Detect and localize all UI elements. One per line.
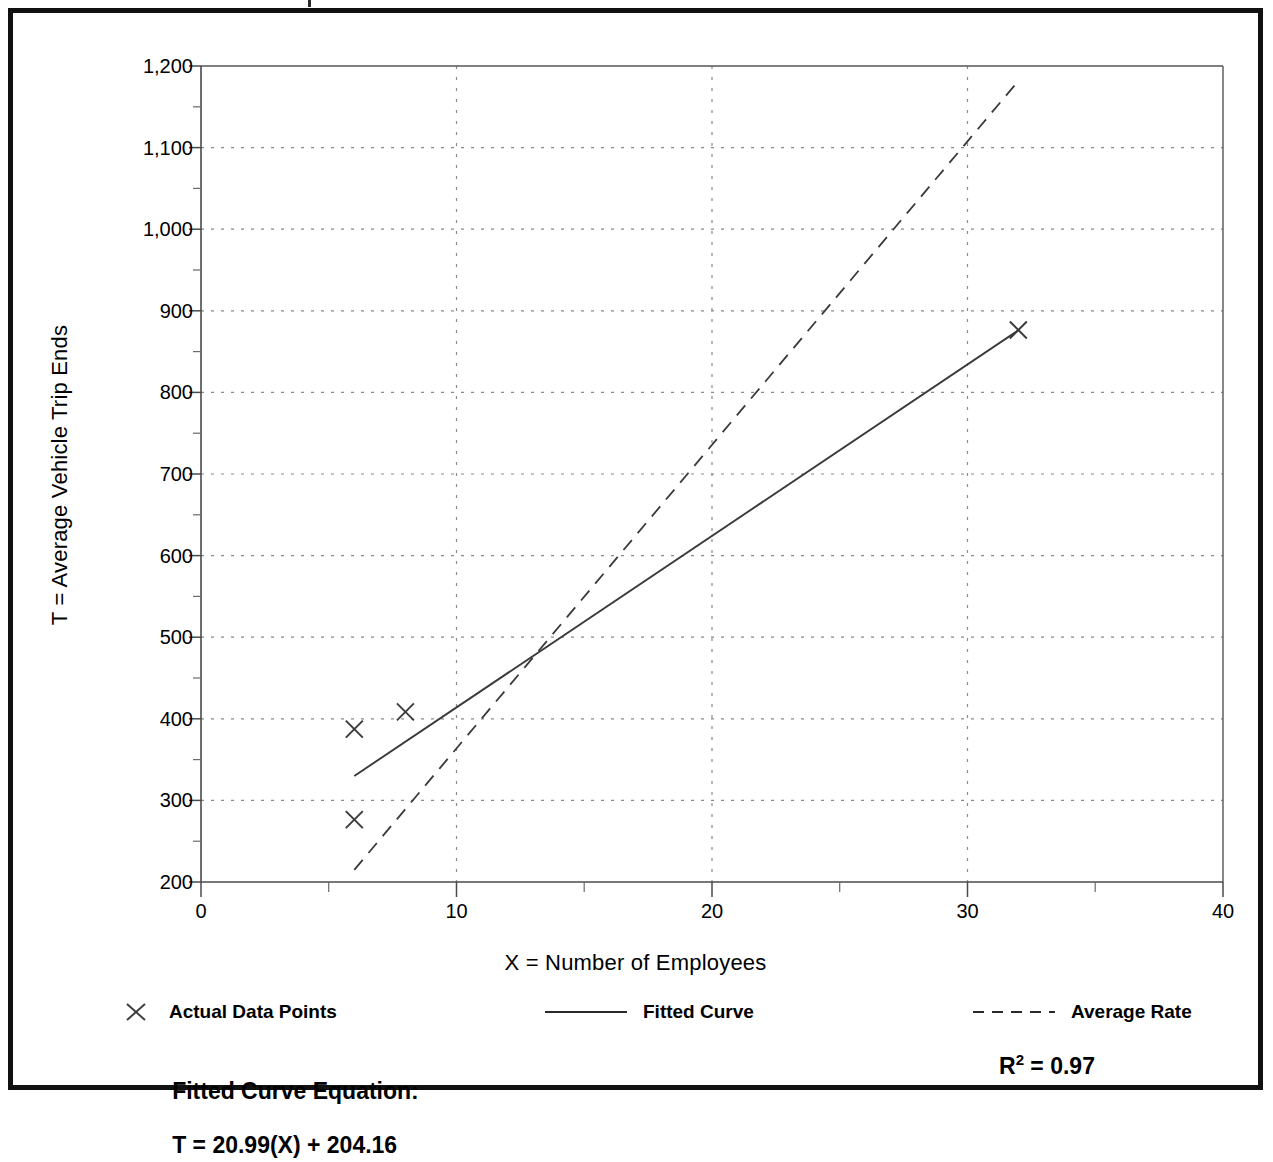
data-point-marker [346, 811, 363, 828]
r-squared-exponent: 2 [1016, 1051, 1024, 1068]
x-axis-ticks [201, 882, 1223, 897]
equation-label: Fitted Curve Equation: [172, 1078, 419, 1104]
y-tick-label: 400 [103, 709, 193, 729]
chart-canvas [13, 13, 1258, 1085]
data-point-marker [1010, 322, 1027, 339]
x-tick-label: 20 [677, 901, 747, 921]
chart-plot-area: 1,200 1,100 1,000 900 800 700 600 500 40… [13, 13, 1258, 1085]
y-tick-label: 1,000 [103, 219, 193, 239]
clipped-title-artifact [308, 0, 311, 7]
legend-label: Actual Data Points [169, 1001, 337, 1023]
y-tick-label: 200 [103, 872, 193, 892]
y-axis-title: T = Average Vehicle Trip Ends [47, 215, 73, 735]
solid-line-icon [543, 1000, 629, 1024]
r-squared-number: = 0.97 [1030, 1053, 1095, 1079]
series-line-fitted-curve [354, 330, 1018, 776]
x-tick-label: 10 [422, 901, 492, 921]
equation-value: T = 20.99(X) + 204.16 [172, 1132, 397, 1158]
legend-item-actual-data-points[interactable]: Actual Data Points [119, 995, 337, 1029]
chart-legend: Actual Data Points Fitted Curve Average … [13, 995, 1258, 1035]
r-squared-symbol: R [999, 1053, 1016, 1079]
grid-lines [201, 66, 1223, 882]
x-tick-label: 30 [933, 901, 1003, 921]
r-squared-value: R2 = 0.97 [999, 1051, 1095, 1080]
series-line-average-rate [354, 81, 1018, 870]
fitted-curve-equation: Fitted Curve Equation: T = 20.99(X) + 20… [121, 1051, 419, 1162]
y-tick-label: 600 [103, 546, 193, 566]
y-tick-label: 1,100 [103, 138, 193, 158]
y-tick-label: 700 [103, 464, 193, 484]
x-axis-title: X = Number of Employees [13, 950, 1258, 976]
series-points-actual-data [346, 322, 1027, 829]
legend-item-average-rate[interactable]: Average Rate [971, 995, 1192, 1029]
equation-footer: Fitted Curve Equation: T = 20.99(X) + 20… [13, 1051, 1258, 1095]
y-tick-label: 900 [103, 301, 193, 321]
y-tick-label: 800 [103, 382, 193, 402]
data-point-marker [346, 721, 363, 738]
data-point-marker [397, 703, 414, 720]
x-tick-label: 0 [166, 901, 236, 921]
y-tick-label: 500 [103, 627, 193, 647]
legend-item-fitted-curve[interactable]: Fitted Curve [543, 995, 754, 1029]
legend-label: Average Rate [1071, 1001, 1192, 1023]
dashed-line-icon [971, 1000, 1057, 1024]
y-tick-label: 300 [103, 790, 193, 810]
y-tick-label: 1,200 [103, 56, 193, 76]
x-tick-label: 40 [1188, 901, 1258, 921]
x-marker-icon [119, 1000, 153, 1024]
figure-frame: 1,200 1,100 1,000 900 800 700 600 500 40… [8, 8, 1263, 1090]
legend-label: Fitted Curve [643, 1001, 754, 1023]
